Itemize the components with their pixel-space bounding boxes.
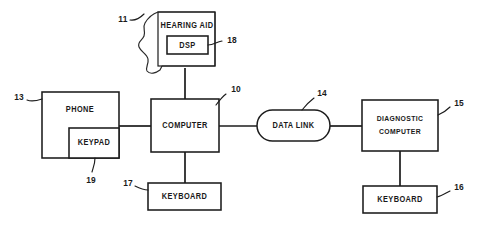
- keyboard-remote-label: KEYBOARD: [377, 195, 422, 204]
- diagnostic-computer-label-line2: COMPUTER: [379, 127, 421, 136]
- hearing-aid-label: HEARING AID: [161, 21, 214, 30]
- ref-num-10: 10: [231, 84, 241, 94]
- node-keypad[interactable]: KEYPAD: [69, 128, 119, 158]
- diagnostic-computer-box: [362, 100, 438, 151]
- leader-line-11: [130, 14, 144, 20]
- node-dsp[interactable]: DSP: [167, 36, 208, 54]
- ref-num-11: 11: [118, 14, 127, 24]
- ref-num-15: 15: [454, 98, 464, 108]
- computer-label: COMPUTER: [162, 121, 207, 130]
- leader-line-13: [27, 99, 42, 101]
- leader-line-14: [302, 98, 314, 110]
- node-keyboard-remote[interactable]: KEYBOARD: [363, 186, 437, 213]
- patent-figure: HEARING AID DSP PHONE KEYPAD COMPUTER KE…: [0, 0, 483, 229]
- ref-num-14: 14: [317, 88, 327, 98]
- ref-num-17: 17: [123, 178, 133, 188]
- node-data-link[interactable]: DATA LINK: [257, 110, 330, 141]
- ref-num-16: 16: [454, 182, 464, 192]
- phone-label: PHONE: [66, 105, 94, 114]
- diagnostic-computer-label-line1: DIAGNOSTIC: [377, 114, 424, 123]
- leader-line-19: [92, 158, 95, 172]
- dsp-label: DSP: [179, 40, 195, 49]
- ref-num-13: 13: [14, 92, 24, 102]
- keypad-label: KEYPAD: [78, 138, 111, 147]
- leader-line-15: [438, 107, 450, 115]
- data-link-label: DATA LINK: [272, 121, 314, 130]
- leader-line-17: [135, 186, 148, 190]
- leader-line-16: [437, 191, 450, 197]
- ref-num-19: 19: [86, 175, 96, 185]
- node-diagnostic-computer[interactable]: DIAGNOSTIC COMPUTER: [362, 100, 438, 151]
- node-keyboard-local[interactable]: KEYBOARD: [148, 183, 221, 210]
- diagram-canvas: HEARING AID DSP PHONE KEYPAD COMPUTER KE…: [0, 0, 483, 229]
- ref-num-18: 18: [227, 35, 237, 45]
- node-computer[interactable]: COMPUTER: [151, 99, 219, 152]
- keyboard-local-label: KEYBOARD: [162, 192, 207, 201]
